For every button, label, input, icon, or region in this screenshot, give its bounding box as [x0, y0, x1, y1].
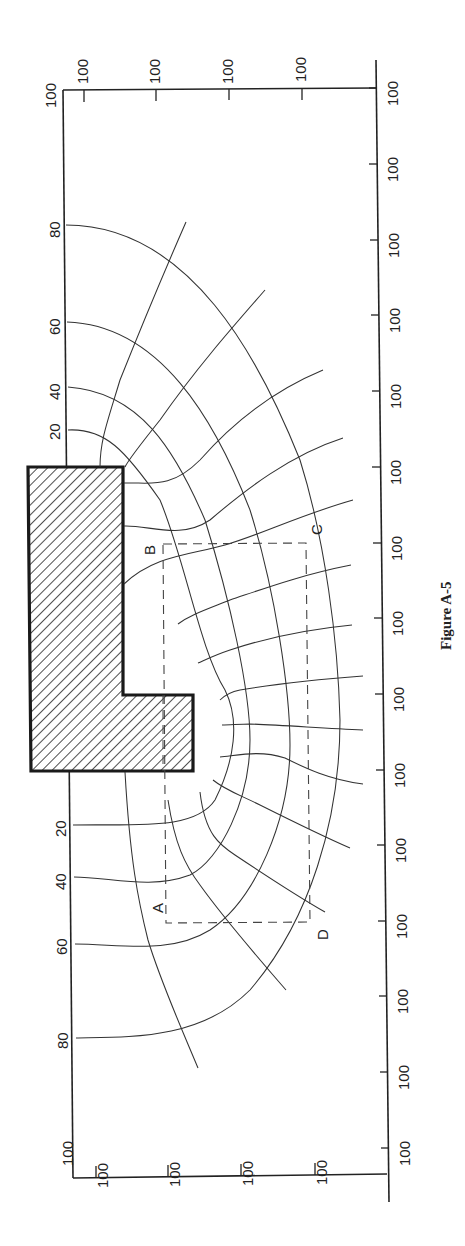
top-boundary-line: [63, 88, 376, 90]
equipotential-line: [198, 625, 352, 663]
equipotential-line: [222, 724, 363, 730]
depth-label-upper-40: 40: [46, 383, 63, 400]
depth-label-lower-60: 60: [53, 938, 70, 955]
depth-label-lower-20: 20: [52, 820, 69, 837]
depth-label-lower-80: 80: [54, 1032, 71, 1049]
point-label-a: A: [149, 903, 166, 913]
top-tick-label: 100: [146, 59, 163, 84]
top-left-corner-label: 100: [42, 83, 59, 108]
right-tick-label: 100: [386, 308, 403, 333]
equipotential-line: [168, 800, 286, 990]
right-tick-label: 100: [388, 536, 405, 561]
top-axis: 100 100 100 100 100: [42, 57, 309, 108]
right-tick-label: 100: [389, 611, 406, 636]
right-tick-label: 100: [385, 233, 402, 258]
bottom-tick-label: 100: [94, 1163, 111, 1188]
equipotential-line: [220, 754, 363, 784]
depth-label-upper-20: 20: [46, 423, 63, 440]
right-tick-label: 100: [387, 460, 404, 485]
bottom-left-corner-label: 100: [59, 1141, 76, 1166]
right-tick-label: 100: [384, 81, 401, 106]
right-tick-label: 100: [395, 1065, 412, 1090]
depth-label-upper-80: 80: [46, 221, 63, 238]
equipotential-lines: [100, 222, 363, 1068]
impervious-structure: [28, 467, 193, 771]
flow-net-figure: 100 100 100 100 100 100 100 100 100 100 …: [0, 0, 465, 1246]
bottom-tick-label: 100: [313, 1160, 330, 1185]
bottom-axis: 100 100 100 100 100: [59, 1141, 330, 1188]
right-tick-label: 100: [394, 989, 411, 1014]
bottom-tick-label: 100: [166, 1162, 183, 1187]
equipotential-line: [124, 370, 323, 483]
equipotential-line: [124, 438, 343, 530]
top-tick-label: 100: [74, 59, 91, 84]
equipotential-line: [200, 792, 325, 912]
bottom-boundary-line: [73, 1174, 387, 1178]
point-label-c: C: [308, 524, 325, 535]
right-tick-label: 100: [393, 914, 410, 939]
equipotential-line: [220, 676, 363, 700]
equipotential-line: [124, 500, 353, 584]
right-tick-label: 100: [396, 1141, 413, 1166]
right-tick-label: 100: [384, 157, 401, 182]
right-tick-label: 100: [387, 384, 404, 409]
top-tick-label: 100: [292, 57, 309, 82]
right-axis-line: [376, 60, 389, 1202]
depth-label-upper-60: 60: [46, 318, 63, 335]
top-tick-label: 100: [219, 59, 236, 84]
equipotential-line: [100, 222, 186, 467]
right-tick-label: 100: [392, 838, 409, 863]
depth-label-lower-40: 40: [52, 873, 69, 890]
figure-caption: Figure A-5: [438, 582, 454, 650]
right-tick-label: 100: [391, 763, 408, 788]
equipotential-line: [178, 565, 351, 624]
right-tick-label: 100: [390, 687, 407, 712]
equipotential-line: [125, 772, 198, 1068]
point-label-b: B: [141, 545, 158, 555]
right-axis: 100 100 100 100 100 100 100 100 100 100 …: [369, 81, 413, 1166]
bottom-tick-label: 100: [239, 1161, 256, 1186]
point-label-d: D: [314, 929, 331, 940]
